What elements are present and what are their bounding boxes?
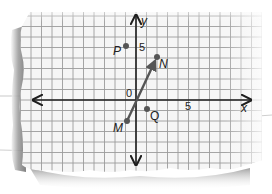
point-n-label: N: [159, 57, 168, 71]
x-axis-label: x: [240, 101, 248, 115]
point-q-label: Q: [150, 109, 159, 123]
point-m-label: M: [113, 121, 123, 135]
origin-label: 0: [126, 87, 132, 99]
y-axis-label: y: [140, 14, 148, 28]
coordinate-diagram: y x 0 5 5 P N M Q: [0, 0, 272, 194]
point-p-label: P: [113, 44, 121, 58]
y-tick-label-5: 5: [139, 41, 145, 53]
x-tick-label-5: 5: [185, 100, 191, 112]
